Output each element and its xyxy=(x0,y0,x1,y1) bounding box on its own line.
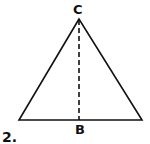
foot-label-b: B xyxy=(75,123,85,136)
vertex-label-c: C xyxy=(73,3,83,16)
figure-number-label: 2. xyxy=(2,130,17,144)
triangle-outline xyxy=(19,19,142,120)
